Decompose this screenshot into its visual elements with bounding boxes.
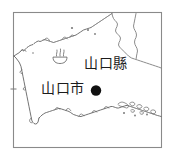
islet-dot-b xyxy=(134,115,136,117)
islet-north-c xyxy=(94,33,96,35)
islet-dot-a xyxy=(123,112,125,114)
prefecture-label: 山口縣 xyxy=(84,56,128,70)
islet-north-d xyxy=(32,52,34,54)
map-figure: 山口縣 山口市 xyxy=(0,0,179,158)
islet-north-a xyxy=(71,27,73,29)
city-marker-dot xyxy=(91,85,101,95)
city-label: 山口市 xyxy=(41,81,85,95)
islet-dot-c xyxy=(146,114,148,116)
map-frame xyxy=(14,13,162,148)
map-canvas xyxy=(0,0,179,158)
islet-north-b xyxy=(87,29,89,31)
